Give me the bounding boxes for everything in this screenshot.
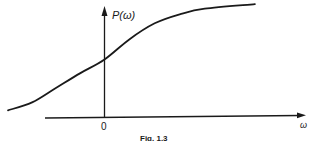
x-axis: [45, 116, 300, 119]
y-axis-label: P(ω): [112, 9, 136, 21]
figure-caption: Fig. 1.3: [140, 134, 168, 142]
x-axis-arrowhead: [297, 113, 306, 119]
y-axis-arrowhead: [102, 6, 108, 16]
figure-canvas: P(ω) 0 ω Fig. 1.3: [0, 0, 309, 141]
x-axis-label: ω: [300, 120, 307, 130]
origin-label: 0: [101, 121, 107, 132]
